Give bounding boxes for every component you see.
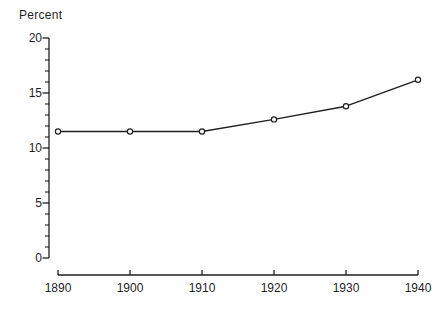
data-point-marker	[199, 129, 204, 134]
x-tick-label: 1920	[261, 281, 288, 295]
y-tick-label: 10	[29, 141, 43, 155]
y-tick-label: 20	[29, 31, 43, 45]
data-point-marker	[271, 117, 276, 122]
x-tick-label: 1890	[45, 281, 72, 295]
y-tick-label: 15	[29, 86, 43, 100]
x-tick-label: 1900	[117, 281, 144, 295]
x-tick-label: 1910	[189, 281, 216, 295]
data-point-marker	[415, 77, 420, 82]
line-chart-svg: 05101520189019001910192019301940	[0, 0, 447, 313]
y-tick-label: 5	[35, 196, 42, 210]
data-point-marker	[343, 104, 348, 109]
data-point-marker	[127, 129, 132, 134]
data-line	[58, 80, 418, 132]
x-tick-label: 1940	[405, 281, 432, 295]
chart-figure: Percent 05101520189019001910192019301940	[0, 0, 447, 313]
y-tick-label: 0	[35, 251, 42, 265]
data-point-marker	[55, 129, 60, 134]
x-tick-label: 1930	[333, 281, 360, 295]
